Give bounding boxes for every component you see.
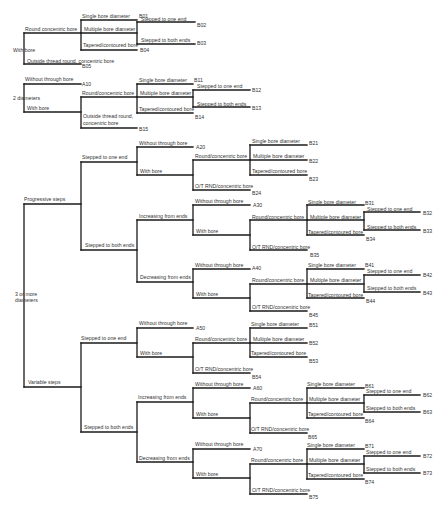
leaf-code-label: B54 — [252, 374, 261, 380]
branch-label: O/T RND/concentric bore — [195, 366, 253, 372]
branch-label: With bore — [196, 471, 218, 477]
branch-label: Increasing from ends — [139, 213, 188, 219]
leaf-code-label: B14 — [195, 114, 204, 120]
branch-label: Without through bore — [25, 76, 74, 82]
branch-label: Tapered/contoured bore — [308, 472, 363, 478]
leaf-code-label: B44 — [366, 298, 375, 304]
classification-tree-diagram: Single bore diameterRound concentric bor… — [0, 0, 445, 506]
leaf-code-label: B65 — [308, 434, 317, 440]
branch-label: O/T RND/concentric bore — [195, 183, 253, 189]
leaf-code-label: B45 — [309, 312, 318, 318]
branch-label: Stepped to both ends — [367, 285, 417, 291]
leaf-code-label: B23 — [309, 176, 318, 182]
leaf-code-label: A60 — [253, 385, 262, 391]
leaf-code-label: B33 — [423, 228, 432, 234]
leaf-code-label: B11 — [194, 77, 203, 83]
branch-label: With bore — [27, 105, 49, 111]
leaf-code-label: B52 — [309, 340, 318, 346]
branch-label: Progressive steps — [24, 196, 66, 202]
leaf-code-label: B64 — [365, 418, 374, 424]
branch-label: Round/concentric bore — [195, 153, 247, 159]
leaf-code-label: B31 — [365, 200, 374, 206]
branch-label: Stepped to both ends — [197, 101, 247, 107]
tree-diagram-svg: Single bore diameterRound concentric bor… — [0, 0, 445, 506]
branch-label: Round/concentric bore — [251, 457, 303, 463]
branch-label: Multiple bore diameter — [140, 90, 192, 96]
branch-label: Decreasing from ends — [140, 274, 191, 280]
branch-label: Multiple bore diameter — [253, 153, 305, 159]
branch-label: Without through bore — [139, 140, 188, 146]
leaf-code-label: B03 — [197, 40, 206, 46]
branch-label: Stepped to both ends — [85, 242, 135, 248]
branch-label: O/T RND/concentric bore — [251, 426, 309, 432]
branch-label: Outside thread round, — [83, 113, 133, 119]
branch-label: O/T RND/concentric bore — [252, 244, 310, 250]
branch-label: diameters — [15, 297, 38, 303]
leaf-code-label: B05 — [82, 63, 91, 69]
branch-label: With bore — [196, 411, 218, 417]
branch-label: Stepped to one end — [366, 449, 411, 455]
branch-label: With bore — [13, 47, 35, 53]
branch-label: Round/concentric bore — [195, 336, 247, 342]
leaf-code-label: B15 — [139, 126, 148, 132]
leaf-code-label: A70 — [253, 446, 262, 452]
branch-label: Decreasing from ends — [139, 455, 190, 461]
branch-label: Tapered/contoured bore — [308, 292, 363, 298]
leaf-code-label: A10 — [82, 81, 91, 87]
branch-label: Variable steps — [28, 379, 61, 385]
branch-label: Stepped to one end — [367, 206, 412, 212]
branch-label: Single bore diameter — [308, 199, 356, 205]
leaf-code-label: B71 — [365, 443, 374, 449]
leaf-code-label: B61 — [365, 383, 374, 389]
branch-label: Multiple bore diameter — [309, 457, 361, 463]
branch-label: With bore — [140, 168, 162, 174]
branch-label: Multiple bore diameter — [310, 277, 362, 283]
leaf-code-label: B34 — [366, 236, 375, 242]
branch-label: Tapered/contoured bore — [83, 42, 138, 48]
branch-label: Outside thread round, concentric bore — [27, 58, 114, 64]
branch-label: Tapered/contoured bore — [308, 411, 363, 417]
branch-label: Single bore diameter — [308, 262, 356, 268]
branch-label: Multiple bore diameter — [310, 214, 362, 220]
leaf-code-label: B32 — [423, 210, 432, 216]
leaf-code-label: B42 — [423, 272, 432, 278]
leaf-code-label: B53 — [309, 358, 318, 364]
branch-label: Stepped to one end — [81, 335, 126, 341]
leaf-code-label: B24 — [252, 190, 261, 196]
branch-label: Stepped to both ends — [366, 466, 416, 472]
leaf-code-label: B51 — [309, 322, 318, 328]
branch-label: Increasing from ends — [138, 394, 187, 400]
leaf-code-label: A20 — [196, 144, 205, 150]
branch-label: Single bore diameter — [307, 381, 355, 387]
branch-label: Stepped to one end — [367, 268, 412, 274]
branch-label: Without through bore — [195, 441, 244, 447]
leaf-code-label: B12 — [252, 87, 261, 93]
branch-label: Single bore diameter — [307, 442, 355, 448]
branch-label: Single bore diameter — [251, 321, 299, 327]
branch-label: Round/concentric bore — [252, 277, 304, 283]
branch-label: Tapered/contoured bore — [308, 229, 363, 235]
branch-label: With bore — [140, 350, 162, 356]
branch-label: Stepped to one end — [197, 83, 242, 89]
leaf-code-label: B43 — [423, 290, 432, 296]
leaf-code-label: B01 — [139, 13, 148, 19]
branch-label: Stepped to both ends — [84, 424, 134, 430]
leaf-code-label: B22 — [309, 158, 318, 164]
leaf-code-label: B63 — [423, 409, 432, 415]
branch-label: Without through bore — [195, 381, 244, 387]
branch-label: Round/concentric bore — [82, 90, 134, 96]
branch-labels: Single bore diameterRound concentric bor… — [13, 13, 417, 493]
branch-label: Multiple bore diameter — [84, 26, 136, 32]
branch-label: Single bore diameter — [82, 13, 130, 19]
leaf-code-label: B74 — [365, 479, 374, 485]
branch-label: Round/concentric bore — [251, 396, 303, 402]
branch-label: Stepped to both ends — [366, 405, 416, 411]
leaf-code-label: B62 — [423, 392, 432, 398]
branch-label: With bore — [196, 228, 218, 234]
leaf-code-label: A40 — [252, 265, 261, 271]
branch-label: Multiple bore diameter — [253, 336, 305, 342]
leaf-code-label: B41 — [365, 262, 374, 268]
leaf-code-label: A50 — [196, 325, 205, 331]
leaf-code-label: B02 — [197, 22, 206, 28]
branch-label: Round/concentric bore — [252, 214, 304, 220]
